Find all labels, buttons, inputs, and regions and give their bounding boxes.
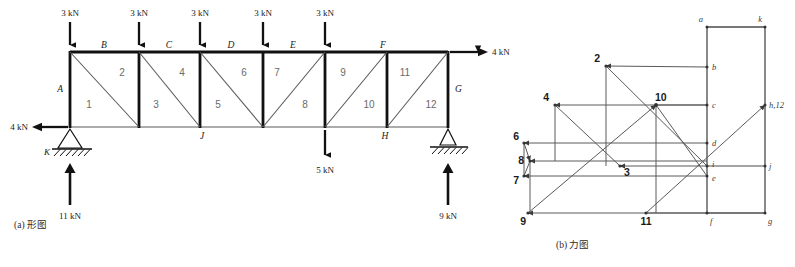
- fd-point-i: [706, 165, 709, 168]
- support-roller-right: [430, 129, 468, 154]
- fd-number-2: 2: [594, 52, 600, 64]
- force-diagram: a k b c h,12 d i j e f g 2 4 10 6 8 3 7: [513, 14, 784, 227]
- panel-number-5: 5: [215, 99, 221, 110]
- panel-number-12: 12: [425, 99, 437, 110]
- fd-number-11: 11: [640, 215, 651, 227]
- member-diagonal-4: [263, 52, 325, 127]
- top-load-arrows: [70, 22, 325, 45]
- label-H: H: [381, 131, 390, 141]
- panel-number-1: 1: [86, 99, 92, 110]
- fd-point-j: [764, 165, 767, 168]
- panel-number-6: 6: [241, 67, 247, 78]
- support-pin-left: [52, 129, 92, 156]
- left-horizontal-load-label: 4 kN: [10, 122, 28, 132]
- caption-form-diagram: (a) 形图: [14, 217, 47, 231]
- fd-line-2-b: [606, 66, 707, 67]
- member-diagonal-1: [70, 52, 139, 127]
- fd-point-8: [528, 159, 531, 162]
- panel-number-8: 8: [302, 99, 308, 110]
- bottom-load-label: 5 kN: [316, 165, 334, 175]
- figure-root: 3 kN 3 kN 3 kN 3 kN 3 kN 4 kN 4 kN 5 kN: [0, 0, 795, 267]
- figure-svg: 3 kN 3 kN 3 kN 3 kN 3 kN 4 kN 4 kN 5 kN: [0, 0, 795, 267]
- label-K: K: [43, 147, 51, 157]
- fd-point-a: [706, 26, 709, 29]
- fd-label-h12: h,12: [769, 100, 785, 110]
- fd-number-9: 9: [520, 215, 526, 227]
- load-label-3: 3 kN: [191, 8, 209, 18]
- fd-label-k: k: [758, 14, 762, 24]
- fd-point-d: [706, 142, 709, 145]
- member-diagonal-6: [387, 52, 448, 127]
- fd-label-f: f: [710, 216, 714, 226]
- label-F: F: [379, 40, 386, 50]
- fd-diagonal-6-8: [524, 143, 530, 161]
- label-A: A: [56, 84, 63, 94]
- fd-number-10: 10: [655, 91, 667, 103]
- label-G: G: [455, 84, 462, 94]
- load-label-1: 3 kN: [61, 8, 79, 18]
- reaction-right-label: 9 kN: [439, 211, 457, 221]
- fd-diagonal-7-8: [524, 161, 530, 176]
- fd-label-a: a: [699, 14, 703, 24]
- label-C: C: [166, 40, 173, 50]
- member-diagonal-5: [325, 52, 387, 127]
- load-label-2: 3 kN: [130, 8, 148, 18]
- fd-number-4: 4: [543, 91, 549, 103]
- fd-label-b: b: [712, 62, 716, 72]
- fd-label-g: g: [768, 216, 772, 226]
- fd-diagonal-10-e: [656, 105, 707, 176]
- panel-number-3: 3: [153, 99, 159, 110]
- fd-point-k: [764, 26, 767, 29]
- fd-point-g: [764, 212, 767, 215]
- fd-label-j: j: [768, 161, 772, 171]
- fd-diagonal-4-3: [555, 105, 620, 166]
- caption-force-diagram: (b) 力图: [556, 237, 589, 251]
- right-horizontal-load-label: 4 kN: [492, 47, 510, 57]
- panel-number-11: 11: [400, 67, 411, 78]
- fd-point-c: [706, 104, 709, 107]
- reaction-right-arrowhead: [443, 163, 454, 173]
- fd-number-6: 6: [513, 130, 519, 142]
- panel-number-2: 2: [119, 67, 125, 78]
- right-load-arrowhead: [478, 48, 488, 56]
- panel-number-7: 7: [274, 67, 280, 78]
- fd-point-6: [522, 141, 525, 144]
- label-B: B: [101, 40, 107, 50]
- fd-point-f: [706, 212, 709, 215]
- load-label-5: 3 kN: [316, 8, 334, 18]
- fd-diagonal-9-10: [528, 105, 656, 213]
- fd-point-10: [654, 103, 658, 107]
- fd-point-3: [618, 164, 621, 167]
- form-diagram: 3 kN 3 kN 3 kN 3 kN 3 kN 4 kN 4 kN 5 kN: [10, 8, 510, 221]
- panel-number-4: 4: [179, 67, 185, 78]
- panel-number-10: 10: [363, 99, 375, 110]
- fd-label-c: c: [712, 100, 716, 110]
- fd-label-e: e: [712, 173, 716, 183]
- fd-point-7: [522, 174, 525, 177]
- reaction-left-arrowhead: [65, 163, 76, 173]
- reaction-left-label: 11 kN: [59, 211, 81, 221]
- fd-point-e: [706, 175, 709, 178]
- member-diagonal-3: [200, 52, 263, 127]
- fd-number-7: 7: [513, 174, 519, 186]
- label-E: E: [289, 40, 296, 50]
- fd-number-3: 3: [624, 166, 630, 178]
- fd-diagonal-11-h12: [646, 105, 765, 213]
- fd-point-b: [706, 66, 709, 69]
- member-diagonal-2: [139, 52, 200, 127]
- label-J: J: [200, 131, 205, 141]
- label-D: D: [227, 40, 235, 50]
- load-label-4: 3 kN: [254, 8, 272, 18]
- panel-number-9: 9: [340, 67, 346, 78]
- fd-number-8: 8: [518, 154, 524, 166]
- fd-point-h12: [764, 104, 767, 107]
- left-load-arrowhead: [32, 123, 42, 131]
- fd-label-i: i: [712, 159, 715, 169]
- fd-point-9: [526, 211, 529, 214]
- fd-label-d: d: [712, 138, 717, 148]
- fd-point-2: [604, 64, 607, 67]
- fd-point-4: [553, 103, 556, 106]
